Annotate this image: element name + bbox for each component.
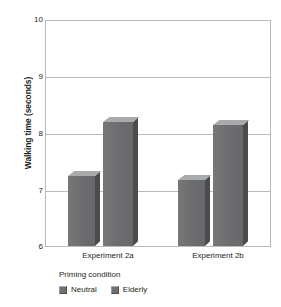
legend-item-elderly: Elderly <box>111 285 147 294</box>
legend-label-neutral: Neutral <box>71 285 97 294</box>
y-tick-label-9: 9 <box>17 73 43 81</box>
bar-experiment-2a-neutral <box>68 176 95 246</box>
bar-front-face <box>178 180 205 246</box>
legend: Priming condition Neutral Elderly <box>59 270 249 294</box>
bar-experiment-2b-neutral <box>178 180 205 246</box>
bar-chart-figure: Walking time (seconds) 10 9 8 7 6 <box>0 0 281 307</box>
bar-front-face <box>68 176 95 246</box>
x-tick-label-experiment-2a: Experiment 2a <box>60 251 156 260</box>
x-tick-label-experiment-2b: Experiment 2b <box>170 251 266 260</box>
bar-experiment-2b-elderly <box>213 125 243 246</box>
bar-side-face <box>243 120 248 246</box>
bar-side-face <box>133 117 138 246</box>
y-tick-label-8: 8 <box>17 130 43 138</box>
legend-label-elderly: Elderly <box>123 285 147 294</box>
gridline-9 <box>46 77 270 78</box>
y-tick-label-10: 10 <box>17 16 43 24</box>
bar-side-face <box>205 175 210 246</box>
legend-items: Neutral Elderly <box>59 285 249 294</box>
bar-front-face <box>103 122 133 246</box>
y-tick-label-6: 6 <box>17 243 43 251</box>
plot-area <box>45 20 271 247</box>
legend-swatch-icon <box>59 286 67 294</box>
y-axis-title: Walking time (seconds) <box>23 43 33 203</box>
legend-swatch-icon <box>111 286 119 294</box>
bar-front-face <box>213 125 243 246</box>
bar-experiment-2a-elderly <box>103 122 133 246</box>
legend-title: Priming condition <box>59 270 249 279</box>
legend-item-neutral: Neutral <box>59 285 97 294</box>
bar-side-face <box>95 171 100 246</box>
y-tick-label-7: 7 <box>17 187 43 195</box>
